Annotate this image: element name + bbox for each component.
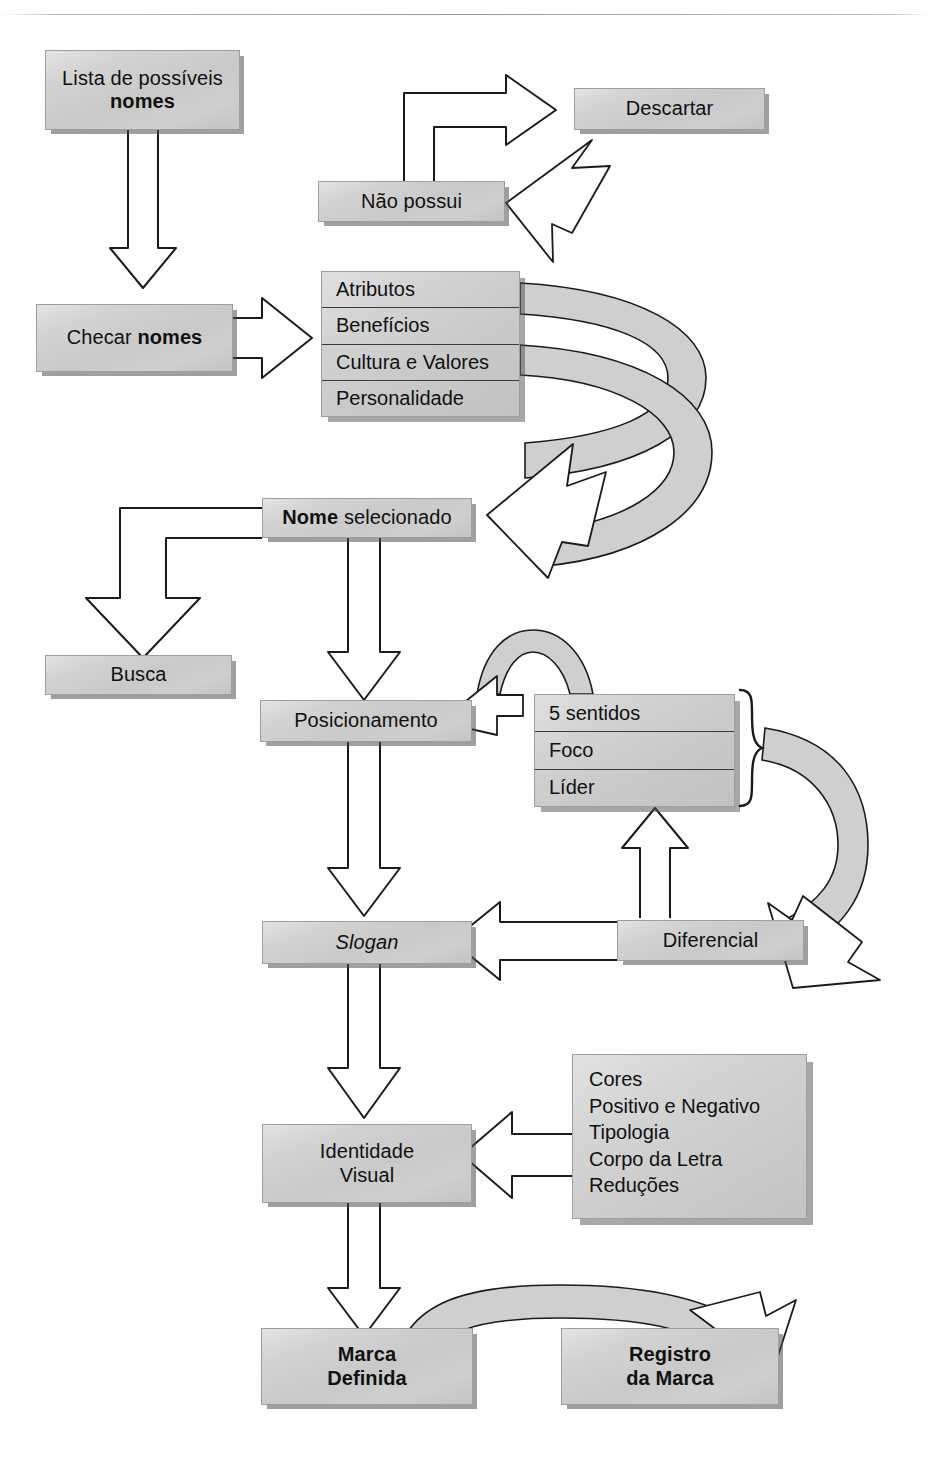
identidade-item-3: Corpo da Letra <box>589 1146 806 1173</box>
node-marca-line2: Definida <box>327 1367 407 1389</box>
identidade-item-4: Reduções <box>589 1172 806 1199</box>
arrow-lista-to-checar <box>110 130 176 288</box>
arrowhead-to-nome-selecionado <box>487 444 606 578</box>
node-checar-prefix: Checar <box>67 326 138 348</box>
node-checar-nomes[interactable]: Checar nomes <box>36 304 233 372</box>
arrow-slogan-to-identidade <box>328 964 400 1118</box>
arrow-identidade-to-marca <box>328 1203 400 1336</box>
node-descartar[interactable]: Descartar <box>574 88 765 130</box>
node-slogan[interactable]: Slogan <box>262 921 472 964</box>
arrowhead-to-nao-possui <box>506 140 610 262</box>
node-identidade-itens[interactable]: Cores Positivo e Negativo Tipologia Corp… <box>572 1054 807 1219</box>
node-identidade-line2: Visual <box>340 1164 395 1186</box>
node-criterios-list[interactable]: Atributos Benefícios Cultura e Valores P… <box>321 271 520 417</box>
arrow-nome-to-posicionamento <box>328 538 400 700</box>
node-registro-line2: da Marca <box>626 1367 714 1389</box>
node-lista-line2: nomes <box>110 90 175 112</box>
node-nao-possui-label: Não possui <box>319 190 504 213</box>
criterio-item-3: Personalidade <box>322 381 519 416</box>
node-busca[interactable]: Busca <box>45 655 232 695</box>
node-busca-label: Busca <box>46 663 231 686</box>
ribbon-criterios-to-nao-possui <box>520 283 706 478</box>
arrow-diferencial-to-slogan <box>452 902 617 980</box>
sentidos-item-2: Líder <box>535 770 734 806</box>
node-nome-bold: Nome <box>282 506 338 528</box>
identidade-item-0: Cores <box>589 1066 806 1093</box>
criterio-item-1: Benefícios <box>322 308 519 344</box>
node-nome-selecionado[interactable]: Nome selecionado <box>262 498 472 538</box>
ribbon-sentidos-to-posicionamento <box>477 630 593 694</box>
arrow-posicionamento-to-slogan <box>328 742 400 916</box>
arrow-naopossui-to-descartar <box>404 75 556 181</box>
arrow-nome-to-busca <box>86 508 262 658</box>
node-posicionamento[interactable]: Posicionamento <box>260 700 472 742</box>
criterio-item-2: Cultura e Valores <box>322 345 519 381</box>
arrow-checar-to-criterios <box>233 298 312 378</box>
node-lista-line1: Lista de possíveis <box>62 67 223 89</box>
page-top-rule <box>0 14 928 15</box>
node-marca-definida[interactable]: Marca Definida <box>261 1328 473 1405</box>
node-registro-line1: Registro <box>629 1343 711 1365</box>
node-checar-bold: nomes <box>137 326 202 348</box>
sentidos-item-1: Foco <box>535 732 734 769</box>
flowchart-page: Lista de possíveis nomes Checar nomes Nã… <box>0 0 928 1475</box>
node-sentidos-list[interactable]: 5 sentidos Foco Líder <box>534 694 735 807</box>
node-diferencial-label: Diferencial <box>618 929 803 952</box>
node-registro-da-marca[interactable]: Registro da Marca <box>561 1328 779 1405</box>
node-identidade-line1: Identidade <box>320 1140 414 1162</box>
identidade-item-1: Positivo e Negativo <box>589 1093 806 1120</box>
criterio-item-0: Atributos <box>322 272 519 308</box>
node-nao-possui[interactable]: Não possui <box>318 181 505 222</box>
identidade-item-2: Tipologia <box>589 1119 806 1146</box>
node-marca-line1: Marca <box>338 1343 396 1365</box>
node-diferencial[interactable]: Diferencial <box>617 920 804 961</box>
ribbon-criterios-to-nome-selecionado <box>520 345 712 566</box>
sentidos-item-0: 5 sentidos <box>535 695 734 732</box>
arrow-itens-to-identidade <box>462 1112 572 1198</box>
node-nome-rest: selecionado <box>338 506 452 528</box>
ribbon-sentidos-to-diferencial <box>762 728 868 952</box>
node-descartar-label: Descartar <box>575 97 764 120</box>
node-posicionamento-label: Posicionamento <box>261 709 471 732</box>
node-identidade-visual[interactable]: Identidade Visual <box>262 1124 472 1203</box>
arrow-diferencial-to-sentidos <box>622 808 688 918</box>
node-slogan-label: Slogan <box>263 931 471 954</box>
curly-brace-sentidos <box>740 690 762 806</box>
node-lista-de-possiveis-nomes[interactable]: Lista de possíveis nomes <box>45 50 240 130</box>
